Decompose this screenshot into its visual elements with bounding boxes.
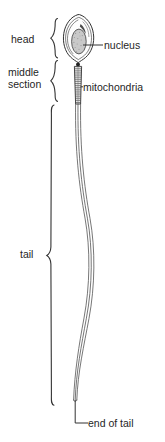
label-end-of-tail: end of tail <box>88 417 134 429</box>
brace-middle-section <box>51 61 58 102</box>
neck-centriole <box>76 62 80 66</box>
label-nucleus: nucleus <box>104 39 140 51</box>
brace-head <box>51 19 58 58</box>
middle-section-sheath <box>74 66 81 104</box>
sperm-tail <box>74 104 94 402</box>
label-tail: tail <box>20 248 33 260</box>
sperm-head <box>63 15 93 67</box>
nucleus-shape <box>72 29 87 54</box>
sperm-diagram-page: head middle section tail nucleus mitocho… <box>0 0 165 442</box>
brace-tail <box>47 105 54 405</box>
label-middle-section-line1: middle <box>8 66 41 78</box>
label-mitochondria: mitochondria <box>83 81 143 93</box>
label-middle-section-line2: section <box>8 78 41 90</box>
label-head: head <box>11 33 34 45</box>
label-middle-section: middle section <box>8 66 41 90</box>
leader-line-end-of-tail <box>75 400 88 423</box>
